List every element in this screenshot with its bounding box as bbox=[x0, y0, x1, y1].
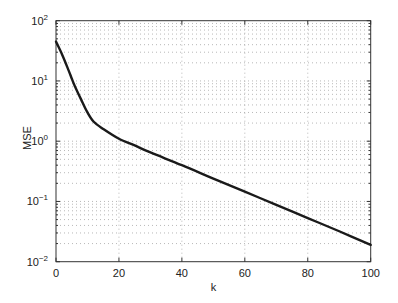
x-tick-label: 20 bbox=[113, 267, 125, 279]
x-tick-label: 80 bbox=[302, 267, 314, 279]
x-tick-label: 60 bbox=[239, 267, 251, 279]
x-axis-label: k bbox=[211, 281, 217, 293]
mse-chart: 020406080100 10−210−1100101102 k MSE bbox=[0, 0, 398, 303]
x-tick-label: 40 bbox=[176, 267, 188, 279]
figure-background bbox=[0, 0, 398, 303]
x-tick-label: 0 bbox=[53, 267, 59, 279]
y-axis-label: MSE bbox=[21, 126, 33, 150]
x-tick-label: 100 bbox=[362, 267, 380, 279]
